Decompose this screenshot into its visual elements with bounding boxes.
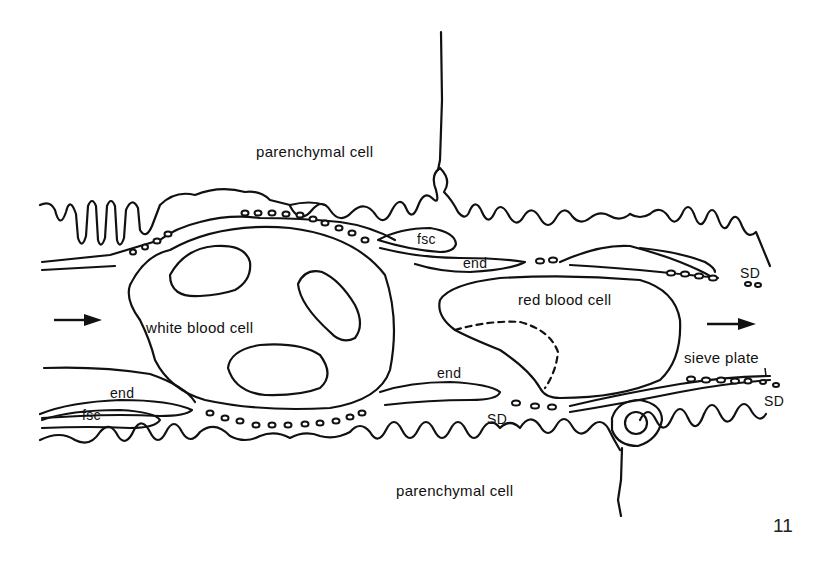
parenchymal-boundary-bottom — [618, 448, 622, 516]
white-blood-cell-nucleus-3 — [228, 344, 328, 395]
label-parenchymal-cell-bottom: parenchymal cell — [396, 483, 513, 498]
sinusoid-diagram — [0, 0, 828, 561]
fsc-left-outline — [42, 410, 160, 428]
figure-number: 11 — [773, 515, 793, 537]
microvilli-bottom — [40, 419, 620, 450]
white-blood-cell-nucleus-2 — [298, 271, 360, 340]
endothelium-bottom-mid — [380, 382, 500, 405]
fsc-bottom-right — [612, 400, 662, 446]
label-sieve-plate: sieve plate — [684, 350, 759, 365]
parenchymal-boundary-top — [438, 32, 442, 170]
label-fsc-left: fsc — [82, 408, 101, 422]
fsc-bottom-right-nucleus — [625, 412, 647, 434]
microvilli-top-mid — [290, 168, 630, 225]
label-end-middle: end — [437, 366, 461, 380]
microvilli-top-right — [630, 207, 770, 266]
flow-arrow-left-icon — [54, 314, 102, 326]
label-sd-bottom-right: SD — [764, 394, 784, 408]
label-sd-bottom-middle: SD — [487, 412, 507, 426]
label-fsc-top: fsc — [417, 232, 436, 246]
endothelium-top-inner — [42, 266, 115, 270]
microvilli-top-left — [40, 189, 325, 244]
end-top-outline — [380, 248, 525, 272]
microvilli-bottom-right — [640, 404, 766, 428]
white-blood-cell-nucleus-1 — [170, 246, 250, 296]
label-red-blood-cell: red blood cell — [518, 292, 611, 307]
label-end-left: end — [110, 386, 134, 400]
flow-arrow-right-icon — [707, 318, 756, 330]
label-sd-top-right: SD — [740, 266, 760, 280]
label-parenchymal-cell-top: parenchymal cell — [256, 144, 373, 159]
endothelium-top-outer — [42, 240, 160, 262]
label-white-blood-cell: white blood cell — [146, 320, 253, 335]
label-end-top: end — [463, 256, 487, 270]
